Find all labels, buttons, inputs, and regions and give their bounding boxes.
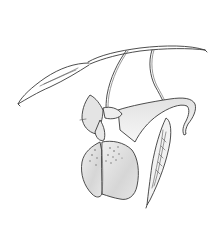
right-seed-pod <box>146 118 171 208</box>
flower-pedicel <box>106 51 126 110</box>
left-seed-pod <box>18 63 89 106</box>
main-stem <box>88 46 207 64</box>
upper-sepal <box>80 95 122 141</box>
flower-illustration <box>0 0 222 225</box>
flower-spur <box>118 98 196 142</box>
illustration-canvas: Pencil illustration of a pendant flower … <box>0 0 222 225</box>
lower-petals <box>81 141 138 199</box>
